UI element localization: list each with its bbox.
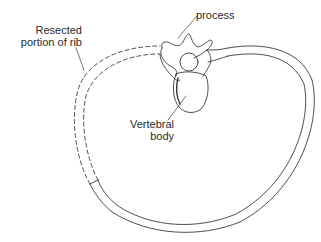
vertebral-body-shading — [177, 78, 180, 104]
rib-cut-end — [90, 180, 98, 184]
vertebra-posterior-arch — [162, 34, 213, 58]
resected-label-line1: Resected — [4, 24, 82, 36]
spinal-canal — [180, 53, 198, 71]
vertebra-left-transverse — [161, 48, 177, 76]
vertebral-label-line1: Vertebral — [124, 118, 174, 130]
resected-label-line2: portion of rib — [4, 36, 82, 48]
vertebra-left-rib-head — [160, 54, 180, 81]
process-label-text: process — [196, 9, 235, 21]
process-label: process — [196, 9, 235, 21]
resected-leader — [76, 48, 84, 70]
vertebral-label-line2: body — [124, 130, 174, 142]
vertebral-body-leader — [168, 96, 186, 120]
resected-rib-outer — [74, 46, 160, 184]
rib-resection-diagram: process Resected portion of rib Vertebra… — [0, 0, 321, 242]
resected-portion-label: Resected portion of rib — [4, 24, 82, 48]
vertebral-body-label: Vertebral body — [124, 118, 174, 142]
resected-rib-inner — [84, 54, 160, 180]
vertebra-right-pedicle — [203, 50, 211, 76]
